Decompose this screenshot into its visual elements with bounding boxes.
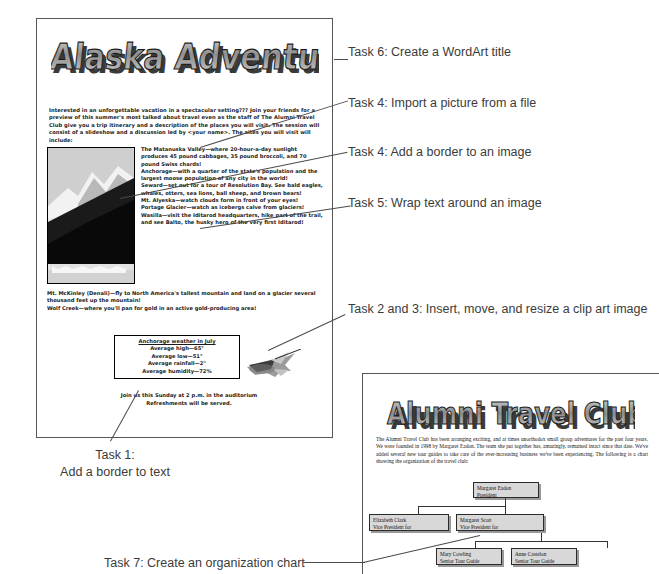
org-person-name: Elizabeth Clark [373,517,445,524]
wordart2-face-layer: Alumni Travel Club [387,397,635,430]
dest-name: Mt. Alyeska [141,197,175,203]
org-connector [418,506,419,514]
dest-text: —watch as icebergs calve from glaciers! [186,204,304,210]
dest-name: Wasilla [141,212,162,218]
dest-name: Portage Glacier [141,204,186,210]
org-person-name: Margaret Scott [460,517,540,524]
annotation-task-1-line-1: Task 1: [30,447,200,464]
org-connector [475,541,476,548]
org-connector [418,506,506,507]
org-connector [505,497,506,506]
weather-row: Average rainfall—2" [115,360,239,367]
weather-title: Anchorage weather in July [115,338,239,345]
annotation-task-5: Task 5: Wrap text around an image [348,196,542,210]
org-box-vp-2[interactable]: Margaret Scott Vice President for [456,514,544,531]
mountain-photo[interactable] [47,147,135,284]
list-item: Portage Glacier—watch as icebergs calve … [141,204,324,211]
leader-line-task7 [303,562,365,563]
organization-chart[interactable]: Margaret Eadon President Elizabeth Clark… [363,478,659,574]
wordart-title-alaska[interactable]: Alaska Adventure!! Alaska Adventure!! [51,31,319,77]
annotation-task-7: Task 7: Create an organization chart [104,556,305,570]
org-connector [607,541,608,548]
destination-list-fullwidth: Mt. McKinley (Denali)—fly to North Ameri… [47,290,325,312]
annotation-task-1: Task 1: Add a border to text [30,447,200,481]
annotation-task-1-line-2: Add a border to text [30,464,200,481]
airplane-clip-art[interactable] [245,349,307,391]
wordart-title-alumni[interactable]: Alumni Travel Club Alumni Travel Club [385,392,635,430]
closing-line-1: Join us this Sunday at 2 p.m. in the aud… [99,392,279,400]
closing-line-2: Refreshments will be served. [99,400,279,408]
weather-row: Average humidity—72% [115,368,239,375]
org-person-title: Senior Tour Guide [440,558,498,565]
org-person-title: President [477,492,535,499]
org-person-name: Anne Castelon [515,551,573,558]
wordart-face-layer: Alaska Adventure!! [51,36,319,77]
alumni-page: Alumni Travel Club Alumni Travel Club Th… [362,373,659,574]
org-box-guide-2[interactable]: Anne Castelon Senior Tour Guide [511,548,577,565]
org-person-title: Vice President for [373,524,445,531]
org-box-guide-1[interactable]: Mary Cowling Senior Tour Guide [436,548,502,565]
wordart2-svg: Alumni Travel Club Alumni Travel Club [385,392,635,430]
list-item: The Matanuska Valley—where 20-hour-a-day… [141,146,324,168]
mountain-photo-image [48,148,134,283]
org-person-title: Senior Tour Guide [515,558,573,565]
dest-name: Anchorage [141,168,172,174]
weather-row: Average high—65° [115,345,239,352]
org-connector [475,541,607,542]
org-box-vp-1[interactable]: Elizabeth Clark Vice President for [369,514,449,531]
annotation-task-4-border: Task 4: Add a border to an image [348,145,531,159]
list-item: Wolf Creek—where you'll pan for gold in … [47,305,325,312]
airplane-icon [245,349,307,391]
org-person-name: Margaret Eadon [477,485,535,492]
intro-paragraph: Interested in an unforgettable vacation … [49,107,324,144]
alumni-body-text: The Alumni Travel Club has been arrangin… [376,436,648,465]
dest-name: The Matanuska Valley [141,146,205,152]
flyer-page: Alaska Adventure!! Alaska Adventure!! In… [36,18,333,438]
dest-text: —watch clouds form in front of your eyes… [175,197,298,203]
dest-name: Mt. McKinley (Denali) [47,290,110,296]
org-connector [541,533,542,541]
org-person-name: Mary Cowling [440,551,498,558]
org-box-president[interactable]: Margaret Eadon President [473,482,539,498]
annotation-task-2-3: Task 2 and 3: Insert, move, and resize a… [348,302,647,316]
closing-text: Join us this Sunday at 2 p.m. in the aud… [99,392,279,407]
org-connector [505,506,506,514]
list-item: Seward—set out for a tour of Resolution … [141,182,324,197]
dest-name: Wolf Creek [47,305,79,311]
wordart-svg: Alaska Adventure!! Alaska Adventure!! [51,31,319,77]
dest-name: Seward [141,182,163,188]
dest-text: —where you'll pan for gold in an active … [79,305,257,311]
annotation-task-6: Task 6: Create a WordArt title [348,45,511,59]
list-item: Mt. Alyeska—watch clouds form in front o… [141,197,324,204]
leader-line-task6 [334,59,348,60]
org-person-title: Vice President for [460,524,540,531]
annotation-task-4-import: Task 4: Import a picture from a file [348,96,536,110]
weather-text-box[interactable]: Anchorage weather in July Average high—6… [114,335,240,379]
list-item: Mt. McKinley (Denali)—fly to North Ameri… [47,290,325,305]
weather-row: Average low—51° [115,353,239,360]
